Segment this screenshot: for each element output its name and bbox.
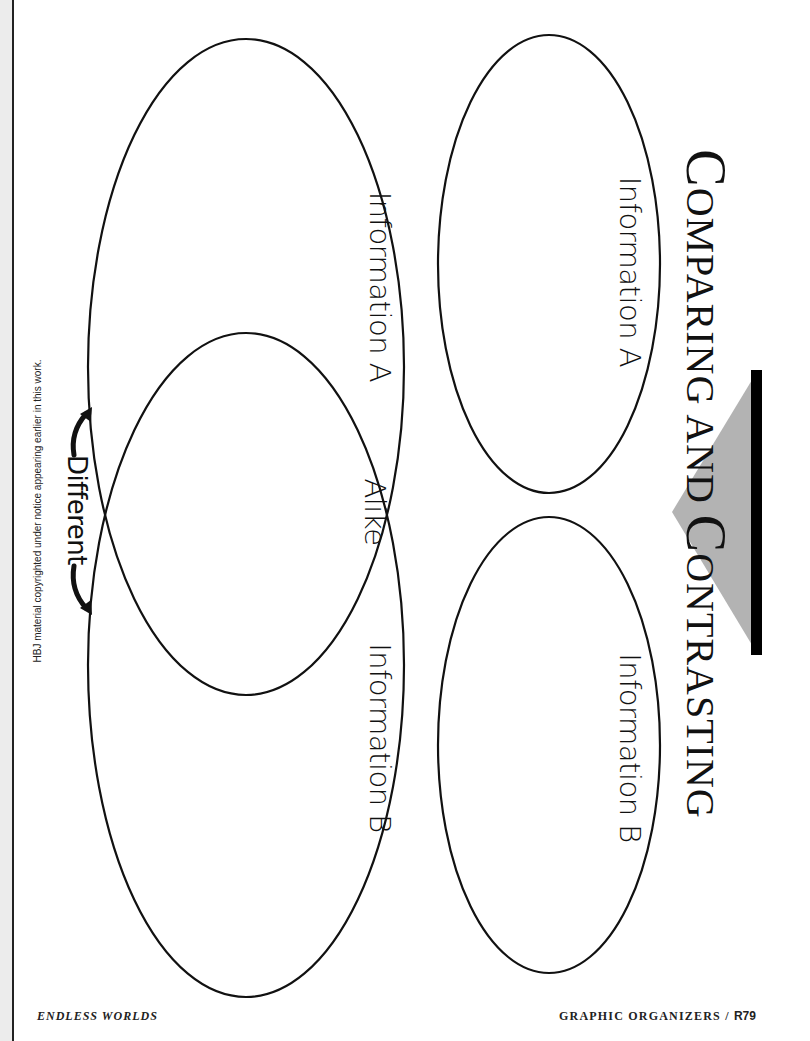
footer-section: GRAPHIC ORGANIZERS / R79 bbox=[559, 1009, 756, 1024]
title-word-contrasting: ONTRASTING bbox=[678, 553, 723, 819]
title-cap-c2: C bbox=[675, 515, 737, 553]
venn-ellipse-a bbox=[88, 39, 404, 695]
page-title: COMPARING AND CONTRASTING bbox=[674, 149, 738, 818]
title-cap-c1: C bbox=[675, 149, 737, 187]
footer-book-title: ENDLESS WORLDS bbox=[37, 1009, 158, 1024]
footer-section-label: GRAPHIC ORGANIZERS / bbox=[559, 1009, 734, 1023]
arrow-down-icon bbox=[73, 566, 92, 615]
venn-label-a: Information A bbox=[363, 192, 397, 382]
title-word-and: AND bbox=[678, 414, 723, 504]
venn-label-different: Different bbox=[62, 455, 92, 565]
arrow-up-icon bbox=[73, 407, 92, 455]
venn-label-alike: Alike bbox=[358, 478, 392, 545]
oval-label-a: Information A bbox=[613, 177, 647, 367]
title-word-comparing: OMPARING bbox=[678, 188, 723, 406]
copyright-notice: HBJ material copyrighted under notice ap… bbox=[32, 360, 43, 663]
venn-ellipse-b bbox=[88, 333, 404, 997]
page-number: R79 bbox=[734, 1009, 756, 1023]
title-accent-bar bbox=[751, 370, 762, 655]
oval-label-b: Information B bbox=[613, 653, 647, 843]
venn-label-b: Information B bbox=[363, 643, 397, 833]
